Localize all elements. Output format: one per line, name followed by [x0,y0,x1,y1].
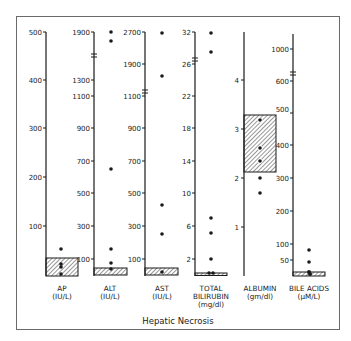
alt-tick-label: 1100 [72,93,90,101]
ap-tick-label: 200 [29,174,42,182]
alt-tick-label: 500 [77,190,90,198]
bilirubin-tick-label: 14 [182,158,191,166]
bilirubin-tick-label: 2 [187,256,191,264]
bilirubin-ticks: 32 26 22 18 14 10 6 2 [182,29,195,264]
panel-bile-acids: 1000 600 500 400 300 200 100 50 BILE ACI… [271,34,329,301]
ast-unit: (IU/L) [152,292,172,301]
albumin-tick-label: 4 [235,77,240,85]
ast-tick-label: 100 [128,256,141,264]
panel-total-bilirubin: 32 26 22 18 14 10 6 2 TOTAL BILIRUBIN (m… [182,29,229,310]
bilirubin-tick-label: 10 [182,190,191,198]
panel-ap: 500 400 300 200 100 AP (IU/L) [29,29,78,302]
bile-acids-tick-label: 50 [280,257,289,265]
bile-acids-tick-label: 300 [276,175,289,183]
ast-data-points [160,31,164,274]
ap-tick-label: 500 [29,29,42,37]
ast-tick-label: 1100 [123,93,141,101]
ast-tick-label: 1900 [123,61,141,69]
bile-acids-tick-label: 400 [276,142,289,150]
ap-tick-label: 100 [29,223,42,231]
albumin-ticks: 4 3 2 1 [235,77,244,232]
albumin-tick-label: 2 [235,175,239,183]
alt-tick-label: 300 [77,223,90,231]
ap-tick-label: 400 [29,77,42,85]
ast-tick-label: 500 [128,190,141,198]
alt-unit: (IU/L) [100,292,120,301]
alt-tick-label: 900 [77,125,90,133]
figure-caption: Hepatic Necrosis [142,316,214,326]
alt-ticks: 1900 1300 1100 900 700 500 300 100 [72,29,94,264]
albumin-unit: (gm/dl) [247,292,273,301]
bile-acids-tick-label: 600 [276,78,289,86]
bilirubin-tick-label: 26 [182,61,191,69]
panel-ast: 2700 1900 1100 900 700 500 300 100 AST (… [123,29,178,302]
bile-acids-tick-label: 1000 [271,46,289,54]
ap-tick-label: 300 [29,125,42,133]
chart-svg: 500 400 300 200 100 AP (IU/L) 1900 1300 … [0,0,351,341]
bilirubin-normal-range-box [195,273,227,276]
bilirubin-tick-label: 18 [182,125,191,133]
ast-tick-label: 2700 [123,29,141,37]
ap-ticks: 500 400 300 200 100 [29,29,46,231]
albumin-tick-label: 1 [235,224,239,232]
albumin-tick-label: 3 [235,126,239,134]
alt-tick-label: 100 [77,256,90,264]
bile-acids-tick-label: 100 [276,241,289,249]
alt-tick-label: 700 [77,158,90,166]
figure: 500 400 300 200 100 AP (IU/L) 1900 1300 … [0,0,351,341]
alt-tick-label: 1300 [72,77,90,85]
bilirubin-tick-label: 22 [182,93,191,101]
bile-acids-tick-label: 200 [276,208,289,216]
panel-albumin: 4 3 2 1 ALBUMIN (gm/dl) [235,32,277,301]
bilirubin-tick-label: 6 [187,223,192,231]
bile-acids-tick-label: 500 [276,106,289,114]
alt-data-points [109,30,113,271]
bile-acids-unit: (µM/L) [298,292,321,301]
ast-tick-label: 900 [128,125,141,133]
ap-unit: (IU/L) [52,292,72,301]
bilirubin-tick-label: 32 [182,29,191,37]
ast-tick-label: 700 [128,158,141,166]
chart-frame [17,17,340,330]
alt-tick-label: 1900 [72,29,90,37]
bilirubin-unit: (mg/dl) [198,300,224,309]
ast-ticks: 2700 1900 1100 900 700 500 300 100 [123,29,145,264]
bilirubin-data-points [207,31,215,275]
ast-tick-label: 300 [128,223,141,231]
panel-alt: 1900 1300 1100 900 700 500 300 100 ALT (… [72,29,127,302]
